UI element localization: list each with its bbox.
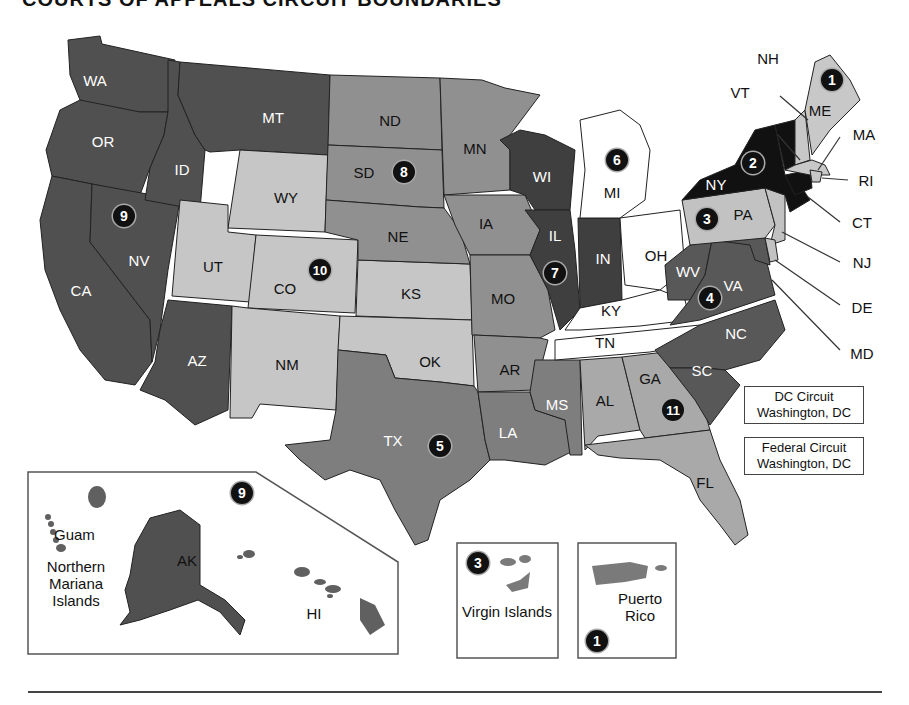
label-ms: MS: [546, 396, 569, 413]
label-al: AL: [596, 392, 614, 409]
label-sd: SD: [354, 164, 375, 181]
label-or: OR: [92, 133, 115, 150]
label-ga: GA: [639, 370, 661, 387]
label-nj: NJ: [853, 254, 871, 271]
circuit-badge-6: 6: [606, 149, 628, 171]
dc-circuit-box: DC Circuit Washington, DC: [744, 386, 864, 424]
label-pa: PA: [734, 206, 753, 223]
label-ia: IA: [479, 215, 493, 232]
label-id: ID: [175, 161, 190, 178]
state-co: [248, 235, 358, 313]
label-az: AZ: [187, 352, 206, 369]
circuit-badge-10: 10: [309, 259, 331, 281]
circuit-badge-1-pr: 1: [586, 630, 608, 652]
label-ri: RI: [859, 172, 874, 189]
federal-circuit-location: Washington, DC: [749, 456, 859, 472]
label-puerto-rico: Puerto Rico: [610, 590, 670, 624]
state-ri: [810, 170, 822, 182]
circuit-badge-4: 4: [699, 287, 721, 309]
label-tn: TN: [595, 334, 615, 351]
label-nh: NH: [757, 50, 779, 67]
label-fl: FL: [696, 474, 714, 491]
label-wv: WV: [676, 263, 700, 280]
circuit-badge-3: 3: [696, 208, 718, 230]
label-nv: NV: [129, 252, 150, 269]
federal-circuit-name: Federal Circuit: [749, 440, 859, 456]
label-ky: KY: [601, 302, 621, 319]
circuit-badge-8: 8: [393, 161, 415, 183]
label-ne: NE: [388, 228, 409, 245]
circuit-badge-5: 5: [429, 435, 451, 457]
label-ut: UT: [203, 258, 223, 275]
label-ma: MA: [853, 126, 876, 143]
label-hi: HI: [307, 605, 322, 622]
label-sc: SC: [692, 362, 713, 379]
label-ks: KS: [401, 285, 421, 302]
label-tx: TX: [383, 432, 402, 449]
label-ny: NY: [706, 176, 727, 193]
label-ct: CT: [852, 214, 872, 231]
label-wa: WA: [83, 72, 107, 89]
label-northern-mariana-islands: Northern Mariana Islands: [36, 558, 116, 609]
label-ok: OK: [419, 353, 441, 370]
label-me: ME: [809, 102, 832, 119]
label-co: CO: [274, 280, 297, 297]
label-ca: CA: [71, 282, 92, 299]
label-nd: ND: [379, 112, 401, 129]
federal-circuit-box: Federal Circuit Washington, DC: [744, 437, 864, 475]
dc-circuit-location: Washington, DC: [749, 405, 859, 421]
label-de: DE: [852, 299, 873, 316]
label-virgin-islands: Virgin Islands: [462, 603, 552, 620]
label-mi: MI: [604, 184, 621, 201]
state-mt: [178, 62, 330, 155]
label-wy: WY: [274, 189, 298, 206]
state-fl: [585, 430, 748, 545]
label-ar: AR: [500, 361, 521, 378]
label-ak: AK: [177, 552, 197, 569]
label-mo: MO: [491, 290, 515, 307]
us-circuit-map: [0, 0, 909, 705]
label-il: IL: [549, 227, 562, 244]
circuit-badge-9-inset: 9: [231, 482, 253, 504]
label-vt: VT: [730, 84, 749, 101]
circuit-badge-9: 9: [113, 205, 135, 227]
label-nc: NC: [725, 325, 747, 342]
bottom-rule: [28, 691, 882, 693]
circuit-badge-2: 2: [742, 152, 764, 174]
label-oh: OH: [645, 247, 668, 264]
dc-circuit-name: DC Circuit: [749, 389, 859, 405]
circuit-badge-3-vi: 3: [467, 552, 489, 574]
label-md: MD: [850, 345, 873, 362]
label-la: LA: [499, 424, 517, 441]
circuit-badge-1: 1: [821, 69, 843, 91]
label-guam: Guam: [54, 526, 95, 543]
state-sd: [326, 145, 444, 208]
label-mn: MN: [463, 140, 486, 157]
label-mt: MT: [262, 109, 284, 126]
label-wi: WI: [533, 168, 551, 185]
circuit-badge-7: 7: [544, 262, 566, 284]
label-va: VA: [724, 277, 743, 294]
circuit-badge-11: 11: [662, 399, 684, 421]
label-in: IN: [596, 250, 611, 267]
label-nm: NM: [275, 356, 298, 373]
